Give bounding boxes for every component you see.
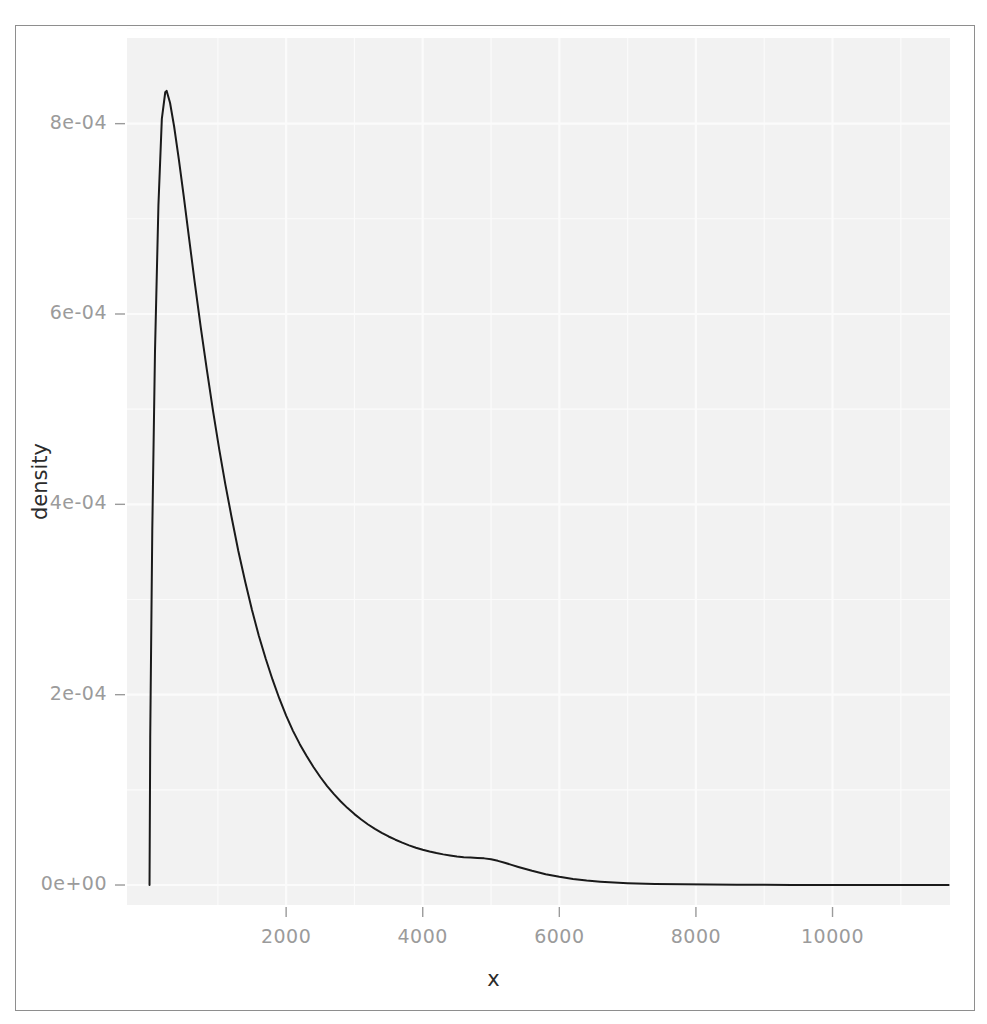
ytick-label-8e-04: 8e-04 — [0, 111, 107, 133]
density-plot-svg — [0, 0, 987, 1024]
x-axis-title: x — [0, 967, 987, 991]
panel-background-group — [127, 38, 950, 905]
ytick-label-0e+00: 0e+00 — [0, 872, 107, 894]
panel-background — [127, 38, 950, 905]
ytick-label-6e-04: 6e-04 — [0, 301, 107, 323]
figure-canvas: 8e-04 6e-04 4e-04 2e-04 0e+00 2000 4000 … — [0, 0, 987, 1024]
y-axis-title: density — [28, 443, 52, 520]
ytick-label-4e-04: 4e-04 — [0, 491, 107, 513]
xtick-label-10000: 10000 — [753, 925, 913, 947]
ytick-label-2e-04: 2e-04 — [0, 682, 107, 704]
